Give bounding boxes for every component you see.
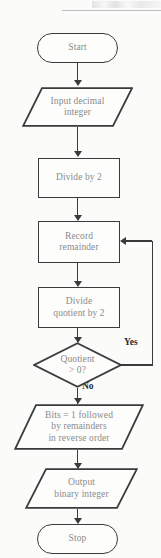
node-output-binary-integer-label: Output binary integer <box>52 477 110 500</box>
connector-yes-vertical-loop <box>152 241 153 365</box>
node-divide-quotient-by-2-label: Divide quotient by 2 <box>51 296 106 319</box>
node-decision-label: Quotient > 0? <box>58 354 96 377</box>
node-bits-line2: by remainders <box>51 421 106 431</box>
node-input-line2: integer <box>64 107 91 117</box>
node-divide-quotient-line2: quotient by 2 <box>53 308 104 318</box>
node-divide-quotient-line1: Divide <box>66 296 92 306</box>
flowchart-page: Start Input decimal integer Divide by 2 … <box>0 0 161 558</box>
page-header-rule <box>62 10 161 11</box>
node-divide-by-2: Divide by 2 <box>38 158 120 198</box>
arrowhead-start-to-input <box>74 80 82 86</box>
node-bits-assignment: Bits = 1 followed by remainders in rever… <box>14 404 144 450</box>
edge-label-yes: Yes <box>124 337 138 347</box>
node-start: Start <box>37 33 118 63</box>
connector-yes-horizontal-into-record <box>126 240 152 241</box>
node-input-decimal-integer-label: Input decimal integer <box>49 96 107 119</box>
node-decision-quotient-greater-than-zero: Quotient > 0? <box>33 342 122 388</box>
node-divide-by-2-label: Divide by 2 <box>54 172 104 184</box>
node-bits-line3: in reverse order <box>48 433 109 443</box>
node-start-label: Start <box>66 42 88 54</box>
node-stop: Stop <box>37 524 118 554</box>
node-output-line1: Output <box>68 477 95 487</box>
node-bits-line1: Bits = 1 followed <box>45 410 113 420</box>
arrowhead-yes-into-record <box>120 237 126 245</box>
node-record-remainder: Record remainder <box>38 221 120 263</box>
node-input-decimal-integer: Input decimal integer <box>22 87 133 127</box>
arrowhead-input-to-divide <box>74 151 82 157</box>
connector-input-to-divide <box>77 127 78 154</box>
node-bits-assignment-label: Bits = 1 followed by remainders in rever… <box>43 410 115 445</box>
node-record-line1: Record <box>65 231 93 241</box>
node-record-line2: remainder <box>59 242 98 252</box>
node-decision-line2: > 0? <box>69 365 86 375</box>
page-header-ghost-text <box>92 1 161 8</box>
node-input-line1: Input decimal <box>51 96 105 106</box>
node-stop-label: Stop <box>67 533 89 545</box>
node-record-remainder-label: Record remainder <box>57 231 100 254</box>
node-decision-line1: Quotient <box>60 354 94 364</box>
node-output-binary-integer: Output binary integer <box>25 468 138 509</box>
node-divide-quotient-by-2: Divide quotient by 2 <box>38 287 120 328</box>
node-output-line2: binary integer <box>54 489 108 499</box>
connector-yes-horizontal-from-decision <box>121 364 153 365</box>
